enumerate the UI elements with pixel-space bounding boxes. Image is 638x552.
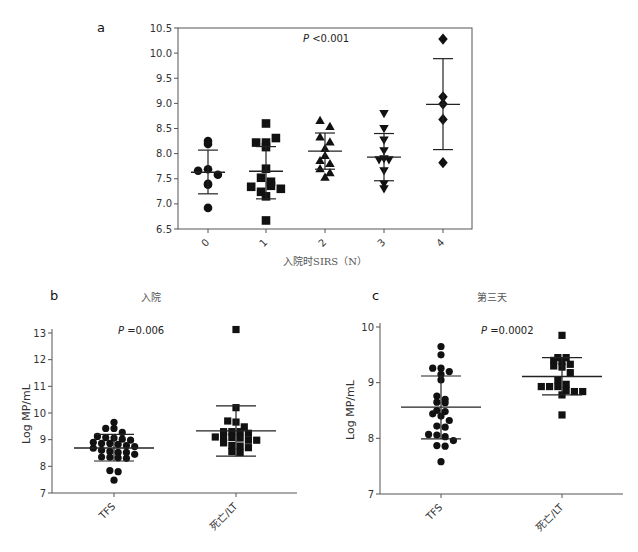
- data-point: [437, 365, 444, 372]
- data-point: [237, 449, 244, 456]
- y-tick-label: 9.0: [156, 98, 172, 109]
- data-point: [277, 185, 286, 194]
- data-point: [579, 388, 586, 395]
- data-point: [433, 399, 440, 406]
- data-point: [442, 424, 449, 431]
- y-tick-label: 9: [40, 434, 46, 445]
- plot-frame: [178, 28, 472, 229]
- data-point: [98, 440, 105, 447]
- panel-label-a: a: [97, 20, 105, 35]
- data-point: [567, 361, 574, 368]
- data-point: [228, 434, 235, 441]
- data-point: [567, 369, 574, 376]
- data-point: [546, 383, 553, 390]
- data-point: [554, 376, 561, 383]
- data-point: [228, 442, 235, 449]
- x-tick-label: 0: [199, 237, 211, 249]
- data-point: [315, 116, 324, 124]
- data-point: [438, 33, 447, 44]
- data-point: [433, 431, 440, 438]
- p-value-a: P <0.001: [303, 33, 349, 44]
- p-value-c: P =0.0002: [481, 325, 534, 336]
- data-point: [247, 182, 256, 191]
- data-point: [252, 138, 261, 147]
- data-point: [379, 110, 388, 118]
- data-point: [558, 332, 565, 339]
- y-tick-label: 7.5: [156, 173, 172, 184]
- data-point: [106, 454, 113, 461]
- data-point: [106, 440, 113, 447]
- y-axis-label-b: Log MP/mL: [20, 383, 33, 444]
- data-point: [119, 429, 126, 436]
- chart-title-b: 入院: [141, 291, 161, 303]
- data-point: [554, 383, 561, 390]
- data-point: [204, 140, 213, 149]
- x-tick-label: TFS: [423, 502, 444, 523]
- data-point: [437, 351, 444, 358]
- x-tick-label: 死亡/LT: [207, 499, 240, 532]
- y-tick-label: 9.5: [156, 73, 172, 84]
- data-point: [194, 166, 203, 175]
- data-point: [379, 185, 388, 193]
- data-point: [131, 451, 138, 458]
- data-point: [563, 381, 570, 388]
- y-tick-label: 8: [368, 433, 374, 444]
- data-point: [245, 437, 252, 444]
- data-point: [325, 137, 334, 145]
- y-tick-label: 7: [40, 488, 46, 499]
- data-point: [571, 388, 578, 395]
- data-point: [237, 428, 244, 435]
- data-point: [446, 417, 453, 424]
- data-point: [131, 443, 138, 450]
- data-point: [437, 458, 444, 465]
- panel-label-b: b: [50, 288, 58, 303]
- data-point: [110, 419, 117, 426]
- data-point: [433, 392, 440, 399]
- data-point: [267, 181, 276, 190]
- x-tick-label: 2: [316, 237, 328, 249]
- x-axis-label-a: 入院时SIRS（N）: [283, 255, 367, 267]
- data-point: [437, 343, 444, 350]
- data-point: [253, 437, 260, 444]
- y-tick-label: 8: [40, 461, 46, 472]
- y-tick-label: 13: [33, 328, 46, 339]
- data-point: [433, 422, 440, 429]
- x-tick-label: 3: [375, 237, 387, 249]
- figure-canvas: a b c 入院 第三天 入院时SIRS（N） Log MP/mL Log MP…: [0, 0, 638, 552]
- chart-title-c: 第三天: [477, 291, 507, 303]
- x-tick-label: 4: [434, 237, 446, 249]
- data-point: [438, 157, 447, 168]
- x-tick-label: 1: [257, 237, 269, 249]
- scatter-plot-c: 78910TFS死亡/LT: [361, 322, 623, 534]
- y-tick-label: 8.0: [156, 148, 172, 159]
- data-point: [425, 431, 432, 438]
- data-point: [262, 119, 271, 128]
- data-point: [558, 411, 565, 418]
- data-point: [115, 468, 122, 475]
- x-tick-label: 死亡/LT: [533, 500, 566, 533]
- data-point: [262, 216, 271, 225]
- data-point: [325, 122, 334, 130]
- data-point: [245, 444, 252, 451]
- data-point: [228, 448, 235, 455]
- data-point: [115, 441, 122, 448]
- data-point: [102, 425, 109, 432]
- data-point: [429, 410, 436, 417]
- y-tick-label: 9: [368, 377, 374, 388]
- data-point: [315, 164, 324, 172]
- data-point: [550, 362, 557, 369]
- data-point: [232, 326, 239, 333]
- data-point: [429, 365, 436, 372]
- y-tick-label: 10: [33, 408, 46, 419]
- data-point: [272, 134, 281, 143]
- scatter-plot-b: 78910111213TFS死亡/LT: [33, 326, 297, 532]
- data-point: [442, 399, 449, 406]
- y-tick-label: 10.5: [150, 23, 172, 34]
- data-point: [110, 477, 117, 484]
- x-tick-label: TFS: [96, 501, 117, 522]
- data-point: [257, 173, 266, 182]
- data-point: [237, 442, 244, 449]
- scatter-plot-a: 6.57.07.58.08.59.09.510.010.501234: [150, 23, 472, 249]
- data-point: [212, 433, 219, 440]
- panel-label-c: c: [372, 288, 379, 303]
